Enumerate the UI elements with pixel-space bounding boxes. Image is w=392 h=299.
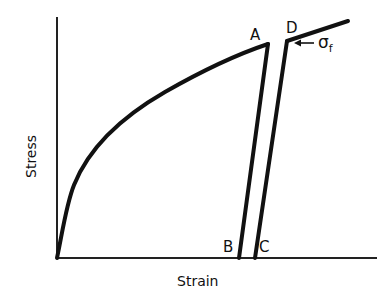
point-label-c: C — [259, 238, 269, 256]
sigma-f-arrow-head-icon — [294, 40, 301, 47]
loading-curve-o-to-a — [57, 44, 268, 258]
sigma-symbol: σ — [318, 32, 329, 52]
unloading-line-a-to-b — [239, 44, 268, 258]
point-label-a: A — [250, 26, 261, 44]
y-axis-label: Stress — [23, 135, 39, 178]
sigma-f-label: σf — [318, 32, 334, 55]
point-label-b: B — [223, 238, 233, 256]
x-axis-label: Strain — [177, 273, 218, 289]
reloading-line-c-to-d — [255, 41, 287, 258]
point-label-d: D — [286, 19, 298, 37]
stress-strain-diagram: A D B C σf Strain Stress — [0, 0, 392, 299]
sigma-subscript: f — [329, 42, 334, 55]
